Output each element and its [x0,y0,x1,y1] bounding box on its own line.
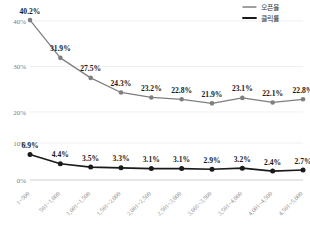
data-point-marker [210,101,215,106]
data-point-label: 40.2% [20,7,41,16]
y-axis-tick-label: 30% [13,63,26,71]
data-point-marker [149,95,154,100]
x-axis-category-label: 2,001~2,500 [125,190,152,217]
data-labels: 40.2%31.9%27.5%24.3%23.2%22.8%21.9%23.1%… [20,7,310,167]
data-point-label: 22.1% [262,89,283,98]
y-axis-tick-label: 40% [13,18,26,26]
data-point-label: 2.9% [203,156,220,165]
data-point-label: 2.4% [264,158,281,167]
data-point-label: 23.2% [141,84,162,93]
chart-legend: 오픈율클릭률 [243,4,280,23]
x-axis-category-labels: 1~500501~1,0001,001~1,5001,501~2,0002,00… [15,190,304,217]
line-chart: 20%30%40%0%10% 40.2%31.9%27.5%24.3%23.2%… [0,0,310,243]
data-point-label: 2.7% [294,157,310,166]
data-point-marker [240,96,245,101]
data-point-marker [58,56,63,61]
data-point-marker [58,161,63,166]
data-point-marker [149,166,154,171]
y-axis-tick-label: 0% [17,177,27,185]
data-point-label: 27.5% [80,64,101,73]
data-point-marker [119,165,124,170]
data-point-marker [210,167,215,172]
data-point-marker [270,100,275,105]
data-point-marker [179,166,184,171]
data-point-marker [88,165,93,170]
data-point-label: 22.8% [171,86,192,95]
x-axis-category-label: 1~500 [15,190,31,206]
data-point-marker [179,97,184,102]
data-point-label: 21.9% [202,90,223,99]
x-axis-category-label: 4,001~4,500 [246,190,273,217]
data-point-label: 3.2% [234,155,251,164]
x-axis-category-label: 3,501~4,000 [216,190,243,217]
data-point-marker [88,76,93,81]
data-point-label: 4.4% [52,150,69,159]
data-point-label: 31.9% [50,44,71,53]
data-point-label: 6.9% [21,141,38,150]
data-point-marker [28,152,33,157]
data-point-label: 22.8% [293,86,310,95]
x-axis-category-label: 1,501~2,000 [95,190,122,217]
data-point-marker [240,166,245,171]
data-point-marker [28,18,33,23]
x-axis-category-label: 2,501~3,000 [155,190,182,217]
data-point-marker [270,169,275,174]
data-point-label: 3.3% [112,154,129,163]
legend-label: 오픈율 [261,4,280,11]
y-axis-tick-label: 20% [13,109,26,117]
chart-container: 20%30%40%0%10% 40.2%31.9%27.5%24.3%23.2%… [0,0,310,243]
data-point-label: 3.1% [173,155,190,164]
x-axis-category-label: 1,001~1,500 [64,190,91,217]
data-point-label: 23.1% [232,84,253,93]
data-point-marker [119,90,124,95]
data-point-marker [301,168,306,173]
x-axis-category-label: 4,501~5,000 [277,190,304,217]
data-point-label: 3.5% [82,154,99,163]
legend-label: 클릭률 [261,15,280,23]
series-line [30,154,303,171]
y-axis-ticks: 20%30%40%0%10% [13,18,26,185]
x-axis-category-label: 501~1,000 [37,190,61,214]
x-axis-category-label: 3,001~3,500 [186,190,213,217]
data-point-label: 3.1% [143,155,160,164]
data-point-label: 24.3% [111,79,132,88]
data-point-marker [301,97,306,102]
